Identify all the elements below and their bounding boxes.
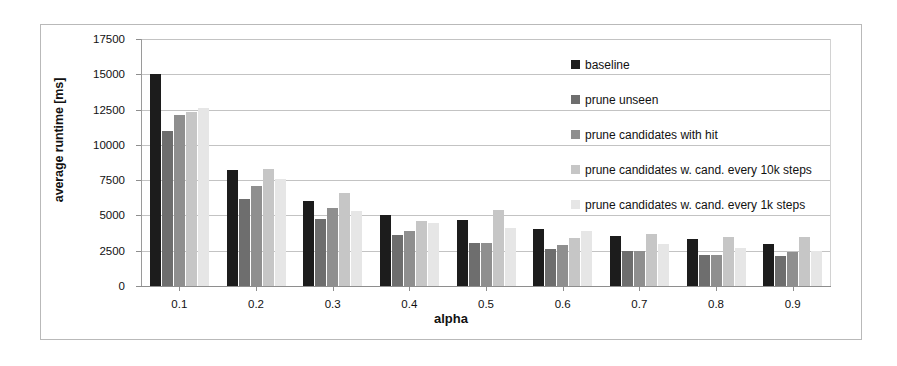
y-tick-mark — [136, 286, 141, 287]
bar — [351, 211, 362, 286]
x-tick-mark — [409, 286, 410, 291]
legend-swatch-icon — [571, 200, 580, 209]
bar — [658, 244, 669, 286]
y-tick-label: 15000 — [35, 68, 125, 80]
x-tick-mark — [333, 286, 334, 291]
bar — [392, 235, 403, 286]
bar — [505, 228, 516, 286]
x-tick-label: 0.4 — [371, 298, 448, 310]
bar — [687, 239, 698, 286]
legend-label: prune unseen — [585, 93, 658, 107]
bar — [186, 112, 197, 286]
bar — [545, 249, 556, 286]
legend-item: prune candidates with hit — [571, 117, 871, 152]
bar — [634, 251, 645, 286]
x-tick-mark — [639, 286, 640, 291]
chart-legend: baselineprune unseenprune candidates wit… — [571, 47, 871, 222]
y-tick-label: 7500 — [35, 174, 125, 186]
bar-group: 0.5 — [448, 39, 525, 286]
bar-group: 0.3 — [294, 39, 371, 286]
chart-frame: average runtime [ms] alpha 0250050007500… — [40, 24, 862, 340]
bar-group: 0.2 — [218, 39, 295, 286]
bar — [469, 243, 480, 286]
x-tick-mark — [486, 286, 487, 291]
bar — [763, 244, 774, 286]
y-tick-label: 0 — [35, 280, 125, 292]
bar — [569, 238, 580, 286]
bar — [622, 251, 633, 286]
bar — [428, 223, 439, 287]
legend-swatch-icon — [571, 130, 580, 139]
x-tick-mark — [793, 286, 794, 291]
bar — [711, 255, 722, 286]
x-tick-mark — [256, 286, 257, 291]
bar — [315, 219, 326, 286]
legend-swatch-icon — [571, 95, 580, 104]
legend-label: prune candidates with hit — [585, 128, 718, 142]
bar — [339, 193, 350, 286]
legend-item: prune candidates w. cand. every 1k steps — [571, 187, 871, 222]
legend-item: prune candidates w. cand. every 10k step… — [571, 152, 871, 187]
legend-label: prune candidates w. cand. every 10k step… — [585, 163, 812, 177]
bar — [735, 248, 746, 286]
bar — [416, 221, 427, 286]
bar — [457, 220, 468, 286]
x-tick-mark — [563, 286, 564, 291]
bar — [150, 74, 161, 286]
legend-item: prune unseen — [571, 82, 871, 117]
bar — [775, 256, 786, 286]
bar — [239, 199, 250, 287]
y-tick-label: 2500 — [35, 245, 125, 257]
bar — [380, 215, 391, 286]
bar — [481, 243, 492, 286]
x-tick-mark — [179, 286, 180, 291]
x-tick-mark — [716, 286, 717, 291]
bar — [174, 115, 185, 286]
x-tick-label: 0.1 — [141, 298, 218, 310]
legend-label: baseline — [585, 58, 630, 72]
y-tick-label: 17500 — [35, 33, 125, 45]
bar — [533, 229, 544, 286]
bar — [162, 131, 173, 286]
bar — [303, 201, 314, 286]
x-tick-label: 0.2 — [218, 298, 295, 310]
x-tick-label: 0.9 — [754, 298, 831, 310]
bar — [198, 108, 209, 286]
bar — [699, 255, 710, 286]
bar-group: 0.4 — [371, 39, 448, 286]
bar — [263, 169, 274, 286]
x-tick-label: 0.8 — [678, 298, 755, 310]
bar — [227, 170, 238, 286]
bar — [723, 237, 734, 286]
bar-group: 0.1 — [141, 39, 218, 286]
bar — [404, 231, 415, 286]
y-tick-label: 10000 — [35, 139, 125, 151]
x-tick-label: 0.6 — [524, 298, 601, 310]
bar — [327, 208, 338, 286]
y-tick-label: 12500 — [35, 104, 125, 116]
bar — [275, 179, 286, 286]
legend-swatch-icon — [571, 165, 580, 174]
bar — [811, 251, 822, 286]
legend-item: baseline — [571, 47, 871, 82]
bar — [610, 236, 621, 286]
bar — [799, 237, 810, 286]
y-tick-label: 5000 — [35, 209, 125, 221]
bar — [251, 186, 262, 286]
bar — [493, 210, 504, 286]
x-axis-title: alpha — [41, 311, 861, 326]
legend-label: prune candidates w. cand. every 1k steps — [585, 198, 805, 212]
x-tick-label: 0.7 — [601, 298, 678, 310]
x-tick-label: 0.5 — [448, 298, 525, 310]
x-tick-label: 0.3 — [294, 298, 371, 310]
legend-swatch-icon — [571, 60, 580, 69]
bar — [581, 231, 592, 286]
bar — [646, 234, 657, 286]
bar — [557, 245, 568, 286]
bar — [787, 252, 798, 286]
